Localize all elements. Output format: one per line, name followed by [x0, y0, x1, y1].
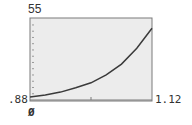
graph-screen — [0, 0, 192, 125]
plot-area — [30, 18, 152, 101]
